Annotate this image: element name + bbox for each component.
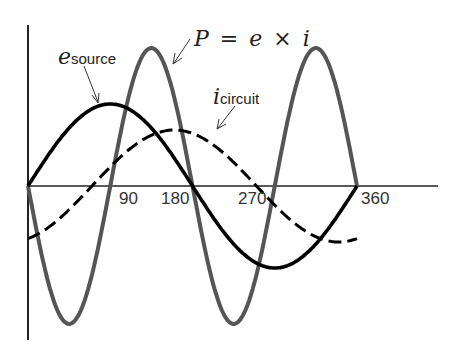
tick-180: 180	[161, 189, 189, 209]
e-source-label: esource	[58, 44, 116, 69]
power-leader-arrow	[173, 39, 190, 64]
tick-90: 90	[119, 189, 138, 209]
i-circuit-label: icircuit	[213, 84, 259, 109]
power-equation-label: P = e × i	[194, 26, 310, 51]
e-source-leader-arrow	[84, 66, 99, 103]
i-circuit-leader-arrow	[217, 106, 235, 129]
tick-360: 360	[361, 189, 389, 209]
tick-270: 270	[238, 189, 266, 209]
